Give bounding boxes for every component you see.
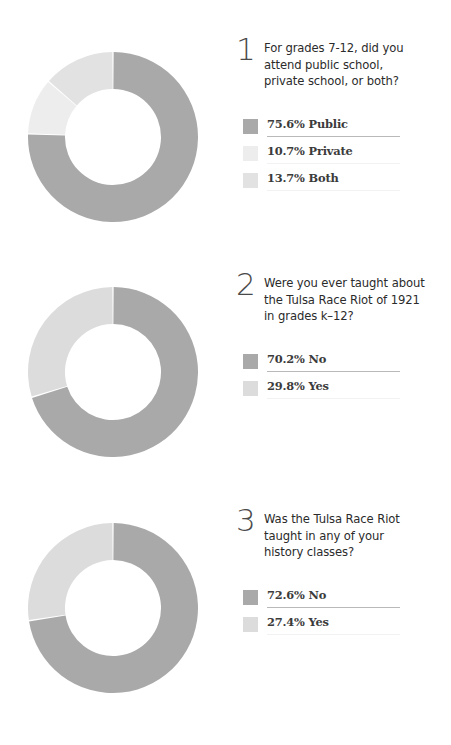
legend-swatch-yes <box>243 617 258 632</box>
legend-rule <box>267 371 400 372</box>
donut-segment-yes <box>28 523 113 620</box>
legend-swatch-private <box>243 146 258 161</box>
legend-name: Public <box>309 117 348 131</box>
legend-row: 70.2%No <box>236 352 446 379</box>
question-2-heading: 2 Were you ever taught about the Tulsa R… <box>236 275 446 331</box>
question-block-3: 3 Was the Tulsa Race Riot taught in any … <box>0 471 451 726</box>
legend-row: 10.7%Private <box>236 144 446 171</box>
question-3-heading: 3 Was the Tulsa Race Riot taught in any … <box>236 511 446 567</box>
legend-percent: 75.6% <box>267 117 305 131</box>
donut-chart-1-svg <box>28 52 198 222</box>
donut-chart-1 <box>28 52 198 222</box>
donut-segment-yes <box>28 287 113 397</box>
legend-row: 27.4%Yes <box>236 615 446 642</box>
legend-row: 29.8%Yes <box>236 379 446 406</box>
question-block-1: 1 For grades 7-12, did you attend public… <box>0 0 451 250</box>
legend-name: No <box>309 588 327 602</box>
legend-label-no: 72.6%No <box>267 588 326 602</box>
donut-chart-2-svg <box>28 287 198 457</box>
question-text-2: Were you ever taught about the Tulsa Rac… <box>264 275 446 325</box>
legend-name: Yes <box>309 615 329 629</box>
legend-percent: 70.2% <box>267 352 305 366</box>
legend-row: 13.7%Both <box>236 171 446 198</box>
legend-name: Both <box>309 171 339 185</box>
legend-row: 72.6%No <box>236 588 446 615</box>
legend-rule <box>267 136 400 137</box>
legend-swatch-no <box>243 590 258 605</box>
legend-rule <box>267 607 400 608</box>
legend-row: 75.6%Public <box>236 117 446 144</box>
legend-label-both: 13.7%Both <box>267 171 339 185</box>
legend-percent: 29.8% <box>267 379 305 393</box>
legend-name: Private <box>309 144 353 158</box>
legend-name: No <box>309 352 327 366</box>
legend-1: 75.6%Public10.7%Private13.7%Both <box>236 117 446 198</box>
legend-percent: 72.6% <box>267 588 305 602</box>
question-text-1: For grades 7-12, did you attend public s… <box>264 40 446 90</box>
question-1-heading: 1 For grades 7-12, did you attend public… <box>236 40 446 96</box>
donut-chart-3 <box>28 523 198 693</box>
question-1-content: 1 For grades 7-12, did you attend public… <box>236 40 446 198</box>
legend-label-public: 75.6%Public <box>267 117 348 131</box>
legend-rule <box>267 190 400 191</box>
question-3-content: 3 Was the Tulsa Race Riot taught in any … <box>236 511 446 642</box>
legend-swatch-both <box>243 173 258 188</box>
question-text-3: Was the Tulsa Race Riot taught in any of… <box>264 511 446 561</box>
legend-rule <box>267 634 400 635</box>
legend-percent: 27.4% <box>267 615 305 629</box>
legend-swatch-public <box>243 119 258 134</box>
legend-label-no: 70.2%No <box>267 352 326 366</box>
donut-chart-2 <box>28 287 198 457</box>
question-number-2: 2 <box>236 269 256 300</box>
question-2-content: 2 Were you ever taught about the Tulsa R… <box>236 275 446 406</box>
legend-label-yes: 27.4%Yes <box>267 615 329 629</box>
legend-swatch-no <box>243 354 258 369</box>
legend-2: 70.2%No29.8%Yes <box>236 352 446 406</box>
legend-3: 72.6%No27.4%Yes <box>236 588 446 642</box>
question-number-3: 3 <box>236 505 256 536</box>
infographic-page: 1 For grades 7-12, did you attend public… <box>0 0 451 745</box>
legend-name: Yes <box>309 379 329 393</box>
legend-swatch-yes <box>243 381 258 396</box>
legend-label-yes: 29.8%Yes <box>267 379 329 393</box>
legend-rule <box>267 163 400 164</box>
legend-percent: 13.7% <box>267 171 305 185</box>
question-number-1: 1 <box>236 34 256 65</box>
question-block-2: 2 Were you ever taught about the Tulsa R… <box>0 235 451 485</box>
legend-rule <box>267 398 400 399</box>
legend-label-private: 10.7%Private <box>267 144 353 158</box>
legend-percent: 10.7% <box>267 144 305 158</box>
donut-chart-3-svg <box>28 523 198 693</box>
